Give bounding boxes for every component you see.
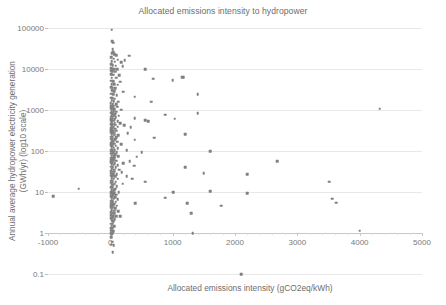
x-tick-minor — [148, 233, 149, 235]
chart-title: Allocated emissions intensity to hydropo… — [0, 6, 446, 16]
x-tick-label: 3000 — [288, 238, 306, 247]
x-tick-minor — [260, 233, 261, 235]
x-tick-minor — [210, 233, 211, 235]
data-point — [144, 68, 147, 71]
data-point — [115, 94, 118, 97]
x-tick-minor — [60, 233, 61, 235]
data-point — [117, 191, 120, 194]
data-point — [135, 156, 138, 159]
data-point — [115, 77, 118, 80]
data-point — [153, 136, 156, 139]
y-tick-mark — [45, 274, 48, 275]
x-tick-minor — [185, 233, 186, 235]
data-point — [110, 29, 113, 32]
gridline-y-10 — [48, 192, 422, 193]
data-point — [128, 54, 131, 57]
data-point — [112, 93, 115, 96]
data-point — [123, 59, 126, 62]
data-point — [117, 155, 120, 158]
data-point — [203, 172, 206, 175]
gridline-y-1000 — [48, 110, 422, 111]
data-point — [116, 140, 119, 143]
data-point — [120, 108, 123, 111]
x-tick-minor — [223, 233, 224, 235]
data-point — [378, 107, 381, 110]
x-tick-minor — [135, 233, 136, 235]
data-point — [147, 120, 150, 123]
x-tick-mark-2000 — [235, 233, 236, 236]
gridline-y-0.1 — [48, 274, 422, 275]
x-tick-minor — [310, 233, 311, 235]
data-point — [115, 64, 118, 67]
data-point — [126, 132, 129, 135]
data-point — [152, 77, 155, 80]
x-tick-minor — [160, 233, 161, 235]
data-point — [118, 74, 121, 77]
y-tick-label: 10 — [35, 188, 44, 197]
data-point — [120, 61, 123, 64]
data-point — [276, 160, 279, 163]
data-point — [113, 60, 116, 63]
data-point — [130, 126, 133, 129]
data-point — [186, 202, 189, 205]
data-point — [133, 117, 136, 120]
data-point — [119, 80, 122, 83]
x-tick-minor — [73, 233, 74, 235]
data-point — [52, 195, 55, 198]
x-tick-mark-1000 — [173, 233, 174, 236]
y-tick-mark — [45, 69, 48, 70]
x-tick-minor — [98, 233, 99, 235]
y-tick-mark — [45, 151, 48, 152]
data-point — [112, 41, 115, 44]
data-point — [116, 84, 119, 87]
data-point — [171, 79, 174, 82]
data-point — [328, 180, 331, 183]
data-point — [173, 118, 176, 121]
y-tick-label: 1000 — [26, 106, 44, 115]
x-tick-mark--1000 — [48, 233, 49, 236]
y-axis-title-wrapper: Annual average hydropower electricity ge… — [0, 0, 40, 260]
data-point — [125, 175, 128, 178]
x-tick-minor — [372, 233, 373, 235]
data-point — [246, 173, 249, 176]
x-tick-label: 1000 — [164, 238, 182, 247]
y-tick-label: 100 — [31, 147, 44, 156]
data-point — [246, 192, 249, 195]
data-point — [122, 182, 125, 185]
data-point — [150, 100, 153, 103]
data-point — [111, 251, 114, 254]
x-tick-minor — [123, 233, 124, 235]
x-tick-mark-3000 — [297, 233, 298, 236]
x-tick-minor — [410, 233, 411, 235]
plot-area: 0.1110100100010000100000 -10000100020003… — [48, 28, 422, 274]
x-axis-title: Allocated emissions intensity (gCO2eq/kW… — [60, 283, 440, 293]
data-point — [110, 236, 113, 239]
data-point — [172, 191, 175, 194]
x-tick-minor — [335, 233, 336, 235]
data-point — [209, 190, 212, 193]
data-point — [122, 65, 125, 68]
data-point — [123, 124, 126, 127]
x-tick-label: 4000 — [351, 238, 369, 247]
data-point — [115, 54, 118, 57]
data-point — [164, 114, 167, 117]
data-point — [117, 147, 120, 150]
y-tick-mark — [45, 192, 48, 193]
x-tick-minor — [247, 233, 248, 235]
data-point — [220, 205, 223, 208]
data-point — [128, 160, 131, 163]
x-tick-minor — [322, 233, 323, 235]
data-point — [117, 210, 120, 213]
data-point — [335, 201, 338, 204]
x-tick-minor — [397, 233, 398, 235]
data-point — [112, 244, 115, 247]
x-tick-label: 2000 — [226, 238, 244, 247]
data-point — [240, 273, 243, 276]
data-point — [77, 187, 80, 190]
data-point — [125, 149, 128, 152]
data-point — [113, 90, 116, 93]
y-tick-mark — [45, 28, 48, 29]
gridline-y-10000 — [48, 69, 422, 70]
data-point — [119, 215, 122, 218]
data-point — [190, 212, 193, 215]
